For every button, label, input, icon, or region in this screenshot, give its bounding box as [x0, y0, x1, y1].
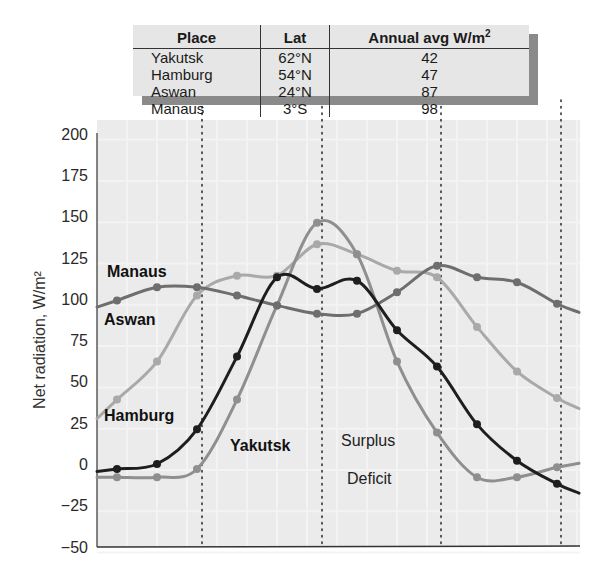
table-row: Aswan 24°N 87: [133, 83, 529, 100]
data-point: [433, 262, 441, 270]
data-point: [393, 326, 401, 334]
data-point: [113, 465, 121, 473]
inset-table: Place Lat Annual avg W/m2 Yakutsk 62°N 4…: [133, 25, 529, 96]
data-point: [113, 396, 121, 404]
data-point: [553, 463, 561, 471]
label-yakutsk: Yakutsk: [230, 437, 291, 454]
cell-lat: 3°S: [261, 100, 330, 117]
cell-place: Hamburg: [133, 66, 261, 83]
data-point: [233, 396, 241, 404]
cell-place: Yakutsk: [133, 49, 261, 67]
data-point: [473, 323, 481, 331]
svg-text:0: 0: [79, 456, 88, 473]
header-place: Place: [133, 25, 261, 49]
data-point: [553, 300, 561, 308]
svg-text:175: 175: [61, 167, 88, 184]
header-lat: Lat: [261, 25, 330, 49]
data-point: [153, 460, 161, 468]
cell-place: Manaus: [133, 100, 261, 117]
cell-lat: 62°N: [261, 49, 330, 67]
svg-text:−50: −50: [61, 539, 88, 556]
data-point: [353, 310, 361, 318]
data-point: [393, 267, 401, 275]
cell-annual: 98: [329, 100, 529, 117]
data-point: [113, 473, 121, 481]
svg-text:100: 100: [61, 291, 88, 308]
data-point: [513, 457, 521, 465]
data-point: [393, 288, 401, 296]
data-point: [433, 363, 441, 371]
data-point: [233, 272, 241, 280]
data-point: [473, 473, 481, 481]
cell-annual: 87: [329, 83, 529, 100]
data-point: [513, 473, 521, 481]
data-point: [313, 310, 321, 318]
label-manaus: Manaus: [107, 263, 167, 280]
svg-text:125: 125: [61, 250, 88, 267]
svg-text:−25: −25: [61, 497, 88, 514]
data-point: [473, 420, 481, 428]
table-row: Manaus 3°S 98: [133, 100, 529, 117]
cell-place: Aswan: [133, 83, 261, 100]
data-point: [313, 285, 321, 293]
data-point: [273, 301, 281, 309]
cell-annual: 42: [329, 49, 529, 67]
table-header-row: Place Lat Annual avg W/m2: [133, 25, 529, 49]
data-point: [153, 358, 161, 366]
data-point: [433, 429, 441, 437]
svg-text:200: 200: [61, 126, 88, 143]
data-point: [193, 465, 201, 473]
svg-text:150: 150: [61, 208, 88, 225]
y-axis-ticks: 2001751501251007550250−25−50: [61, 126, 88, 556]
table-row: Hamburg 54°N 47: [133, 66, 529, 83]
data-point: [153, 473, 161, 481]
cell-lat: 24°N: [261, 83, 330, 100]
y-axis-title: Net radiation, W/m²: [31, 270, 48, 408]
data-point: [153, 283, 161, 291]
data-point: [553, 394, 561, 402]
label-surplus: Surplus: [341, 432, 395, 449]
data-point: [433, 273, 441, 281]
label-aswan: Aswan: [104, 311, 156, 328]
data-point: [193, 283, 201, 291]
cell-lat: 54°N: [261, 66, 330, 83]
data-point: [113, 296, 121, 304]
data-point: [513, 367, 521, 375]
data-point: [313, 240, 321, 248]
data-point: [513, 278, 521, 286]
label-hamburg: Hamburg: [104, 407, 174, 424]
table-box: Place Lat Annual avg W/m2 Yakutsk 62°N 4…: [133, 25, 529, 96]
label-deficit: Deficit: [347, 470, 392, 487]
table-row: Yakutsk 62°N 42: [133, 49, 529, 67]
data-point: [473, 273, 481, 281]
data-point: [353, 277, 361, 285]
data-point: [273, 273, 281, 281]
svg-text:25: 25: [70, 415, 88, 432]
data-point: [193, 425, 201, 433]
data-point: [353, 250, 361, 258]
data-point: [233, 353, 241, 361]
plot-background: [97, 120, 580, 547]
data-point: [553, 480, 561, 488]
cell-annual: 47: [329, 66, 529, 83]
data-point: [393, 358, 401, 366]
svg-text:75: 75: [70, 332, 88, 349]
svg-text:50: 50: [70, 373, 88, 390]
data-point: [233, 291, 241, 299]
data-point: [313, 219, 321, 227]
header-annual: Annual avg W/m2: [329, 25, 529, 49]
data-point: [193, 291, 201, 299]
annual-average-table: Place Lat Annual avg W/m2 Yakutsk 62°N 4…: [133, 25, 529, 117]
